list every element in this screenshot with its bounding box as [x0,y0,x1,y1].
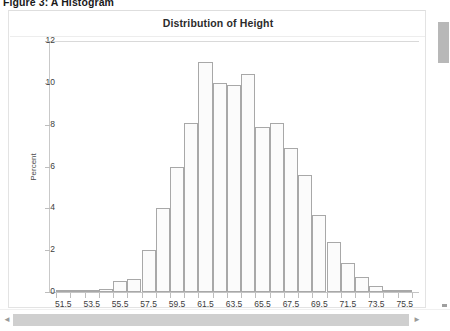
x-tick-mark [341,293,342,298]
x-tick-mark [298,293,299,298]
histogram-bar [341,263,355,292]
x-tick-mark [113,293,114,298]
histogram-bar [312,215,326,292]
histogram-bar [156,208,170,292]
histogram-bar [327,242,341,292]
histogram-bar [355,277,369,292]
figure-caption: Figure 3: A Histogram [3,0,114,8]
histogram-bar [142,250,156,292]
x-tick-mark [284,293,285,298]
vertical-scrollbar-track[interactable] [437,10,450,310]
scroll-left-arrow-icon[interactable]: ◄ [1,314,13,326]
x-tick-mark [241,293,242,298]
x-tick-mark [213,293,214,298]
horizontal-scrollbar-track[interactable]: ◄ ► [0,309,450,331]
y-tick-label: 4 [9,202,55,212]
histogram-bar [184,123,198,292]
histogram-bar [227,85,241,292]
x-tick-mark [312,293,313,298]
x-axis-line [49,292,419,293]
y-tick-label: 2 [9,244,55,254]
histogram-bar [85,290,99,292]
y-tick-label: 8 [9,119,55,129]
histogram-bar [241,74,255,292]
histogram-bar [284,148,298,292]
scroll-corner-marker [442,304,447,307]
scroll-viewport: Distribution of Height Percent 024681012… [0,10,450,310]
histogram-bar [298,175,312,292]
x-tick-mark [99,293,100,298]
histogram-bar [127,279,141,292]
x-tick-mark [383,293,384,298]
histogram-bar [398,290,412,292]
x-tick-mark [56,293,57,298]
histogram-bar [255,127,269,292]
x-tick-mark [184,293,185,298]
y-tick-label: 10 [9,77,55,87]
x-tick-mark [412,293,413,298]
x-tick-mark [270,293,271,298]
histogram-bar [99,289,113,292]
x-tick-mark [327,293,328,298]
title-divider [10,36,425,37]
histogram-bar [213,83,227,292]
chart-title: Distribution of Height [9,17,427,29]
x-tick-mark [170,293,171,298]
x-tick-mark [127,293,128,298]
histogram-bars [50,41,419,292]
horizontal-scrollbar-thumb[interactable] [13,314,409,326]
histogram-bar [113,281,127,293]
histogram-bar [56,290,70,292]
x-tick-mark [85,293,86,298]
y-tick-mark [45,292,50,293]
x-tick-mark [369,293,370,298]
chart-card: Distribution of Height Percent 024681012… [8,10,426,308]
x-tick-mark [255,293,256,298]
x-tick-mark [398,293,399,298]
y-tick-label: 12 [9,35,55,45]
x-tick-mark [142,293,143,298]
y-tick-label: 0 [9,286,55,296]
x-tick-label: 75.5 [388,299,422,309]
x-tick-mark [70,293,71,298]
histogram-bar [170,167,184,293]
vertical-scrollbar-thumb[interactable] [438,22,449,63]
histogram-bar [270,123,284,292]
histogram-bar [70,290,84,292]
histogram-bar [369,286,383,292]
x-tick-mark [198,293,199,298]
scroll-right-arrow-icon[interactable]: ► [411,314,423,326]
y-tick-label: 6 [9,161,55,171]
x-tick-mark [156,293,157,298]
histogram-bar [383,290,397,293]
histogram-bar [198,62,212,292]
x-tick-mark [227,293,228,298]
x-tick-mark [355,293,356,298]
